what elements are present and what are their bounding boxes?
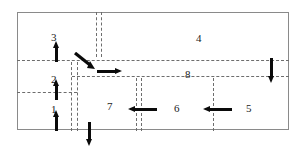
arrow-shaft xyxy=(209,108,232,111)
lane-marking-vertical-north-east xyxy=(101,12,102,57)
arrowhead-down-icon xyxy=(86,139,92,146)
arrow-shaft xyxy=(270,58,273,77)
diagram-canvas: 1 2 3 4 5 6 7 8 xyxy=(0,0,308,154)
arrow-shaft xyxy=(55,115,58,131)
arrowhead-right-icon xyxy=(115,68,122,74)
arrow-diagonal-merge xyxy=(74,52,98,72)
lane-marking-vertical-west-a xyxy=(71,62,72,131)
lane-marking-vertical-east xyxy=(213,78,214,131)
lane-label-4: 4 xyxy=(196,33,202,44)
arrow-down-south-exit xyxy=(86,122,93,146)
arrow-left-lane-5 xyxy=(203,106,232,113)
lane-label-6: 6 xyxy=(174,103,180,114)
lane-marking-horizontal-middle xyxy=(72,76,289,77)
lane-marking-vertical-west-b xyxy=(77,62,78,131)
arrow-right-turn xyxy=(97,68,122,75)
lane-label-8: 8 xyxy=(185,69,191,80)
lane-marking-vertical-mid-a xyxy=(136,78,137,131)
arrow-left-lane-6 xyxy=(128,106,157,113)
arrow-shaft xyxy=(134,108,157,111)
arrow-down-east-exit xyxy=(268,58,275,83)
arrow-shaft xyxy=(97,70,116,73)
arrow-diagonal-down-right-icon xyxy=(74,52,98,72)
arrow-up-lane-2 xyxy=(53,79,60,100)
lane-marking-horizontal-lower-left xyxy=(17,92,77,93)
arrow-shaft xyxy=(55,46,58,62)
lane-marking-vertical-north-west xyxy=(96,12,97,57)
arrow-shaft xyxy=(55,84,58,100)
lane-label-5: 5 xyxy=(246,103,252,114)
lane-label-7: 7 xyxy=(107,101,113,112)
lane-marking-vertical-mid-b xyxy=(141,78,142,131)
arrow-shaft xyxy=(88,122,91,140)
arrow-up-lane-3 xyxy=(53,41,60,62)
arrowhead-down-icon xyxy=(268,76,274,83)
arrow-up-lane-1 xyxy=(53,110,60,131)
